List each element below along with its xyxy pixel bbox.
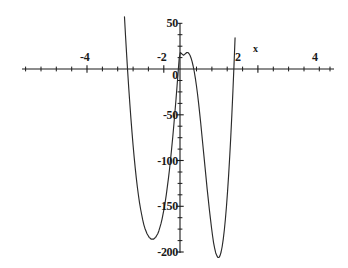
y-tick-label-neg100: -100 [142,155,178,167]
x-tick-label-4: 4 [312,51,318,63]
y-tick-label-neg200: -200 [142,246,178,258]
chart-figure: 50 0 -50 -100 -150 -200 -4 -2 2 4 x [0,0,348,268]
y-tick-label-0: 0 [160,69,178,81]
x-tick-label-2: 2 [235,51,241,63]
plot-canvas [0,0,348,268]
y-tick-label-50: 50 [156,17,178,29]
x-tick-label-neg2: -2 [157,51,166,63]
y-tick-label-neg150: -150 [142,200,178,212]
y-axis-ticks [176,23,183,252]
x-tick-label-neg4: -4 [80,51,89,63]
y-tick-label-neg50: -50 [149,109,178,121]
x-axis-label: x [253,44,258,54]
